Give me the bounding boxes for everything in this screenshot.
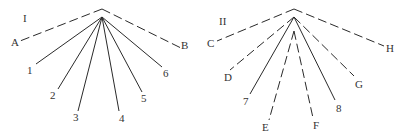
ray-label-d: D — [224, 71, 232, 83]
ray-b — [102, 9, 181, 48]
ray-label-5: 5 — [141, 92, 147, 104]
ray-5 — [102, 17, 142, 92]
ray-label-4: 4 — [119, 112, 125, 124]
diagram-title: II — [219, 15, 227, 27]
ray-6 — [102, 17, 162, 67]
ray-7 — [250, 17, 294, 94]
diagram-II: II CHDG78EF — [207, 9, 394, 133]
ray-label-g: G — [355, 78, 363, 90]
ray-label-3: 3 — [73, 111, 79, 123]
diagram-I: I AB123456 — [11, 9, 188, 124]
ray-f — [294, 31, 313, 118]
ray-4 — [102, 17, 119, 111]
ray-d — [230, 17, 294, 70]
ray-c — [217, 9, 294, 41]
ray-label-b: B — [181, 39, 188, 51]
ray-g — [294, 17, 354, 76]
ray-label-e: E — [262, 121, 269, 133]
ray-label-h: H — [386, 42, 394, 54]
ray-label-1: 1 — [27, 64, 33, 76]
ray-label-8: 8 — [336, 102, 342, 114]
ray-label-2: 2 — [50, 89, 56, 101]
ray-label-7: 7 — [243, 95, 249, 107]
ray-h — [294, 9, 384, 46]
fan-diagram-canvas: I AB123456 II CHDG78EF — [0, 0, 404, 137]
ray-label-6: 6 — [163, 67, 169, 79]
ray-label-a: A — [11, 36, 19, 48]
ray-e — [269, 31, 294, 120]
ray-label-c: C — [207, 37, 214, 49]
ray-2 — [58, 17, 102, 89]
diagram-title: I — [23, 12, 27, 24]
ray-label-f: F — [313, 119, 319, 131]
